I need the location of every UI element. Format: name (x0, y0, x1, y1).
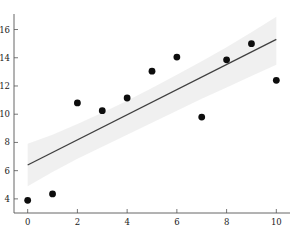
x-tick-label: 8 (224, 217, 229, 227)
y-tick-label: 6 (5, 166, 10, 176)
y-tick-label: 10 (0, 109, 10, 119)
y-tick-label: 4 (5, 194, 10, 204)
y-tick-label: 14 (0, 53, 10, 63)
data-point (273, 77, 280, 84)
y-tick-label: 8 (5, 137, 10, 147)
data-point (248, 40, 255, 47)
data-point (173, 54, 180, 61)
y-tick-label: 16 (0, 25, 10, 35)
x-tick-label: 10 (271, 217, 282, 227)
data-point (223, 56, 230, 63)
x-tick-label: 6 (174, 217, 179, 227)
data-point (49, 191, 56, 198)
data-point (74, 100, 81, 107)
y-tick-label: 12 (0, 81, 10, 91)
data-point (99, 107, 106, 114)
plot-canvas: 46810121416 0246810 (0, 0, 298, 248)
data-point (149, 68, 156, 75)
data-point (124, 95, 131, 102)
x-tick-label: 2 (75, 217, 80, 227)
scatter-plot-figure: 46810121416 0246810 (0, 0, 298, 248)
data-point (24, 197, 31, 204)
data-point (198, 114, 205, 121)
x-tick-label: 0 (25, 217, 30, 227)
x-tick-label: 4 (124, 217, 129, 227)
